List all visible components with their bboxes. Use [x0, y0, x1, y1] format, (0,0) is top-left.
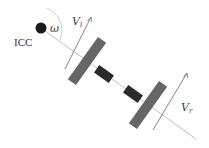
vl-label: Vl — [72, 15, 82, 29]
vr-label: Vr — [181, 101, 193, 115]
icc-dot — [36, 23, 47, 34]
omega-label: ω — [50, 22, 59, 35]
right-hub — [123, 85, 143, 103]
vl-label-sub: l — [80, 21, 82, 29]
left-wheel — [68, 37, 106, 85]
wheel-axis-line — [41, 28, 196, 139]
icc-label: ICC — [14, 36, 32, 48]
differential-drive-diagram: ICC ω Vl Vr — [0, 0, 209, 148]
vr-label-sub: r — [189, 107, 193, 115]
right-wheel — [129, 81, 167, 129]
